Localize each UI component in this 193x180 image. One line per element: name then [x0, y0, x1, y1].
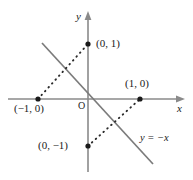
y-axis-arrow-icon	[85, 11, 92, 20]
equation-label: y = −x	[140, 133, 169, 144]
x-axis-label: x	[177, 103, 182, 114]
data-point-0-1	[85, 41, 90, 46]
coordinate-plane-figure: y x O (0, 1) (1, 0) (−1, 0) (0, −1) y = …	[0, 0, 193, 180]
point-label-0-neg1: (0, −1)	[38, 140, 68, 151]
dotted-segment-neg1-0-to-0-1	[38, 44, 88, 99]
origin-label: O	[78, 101, 85, 111]
graph-canvas	[0, 0, 193, 180]
point-label-0-1: (0, 1)	[96, 38, 120, 49]
y-axis-label: y	[76, 11, 81, 22]
point-label-1-0: (1, 0)	[125, 78, 149, 89]
data-point-1-0	[137, 96, 142, 101]
point-label-neg1-0: (−1, 0)	[14, 103, 44, 114]
data-point-neg1-0	[35, 96, 40, 101]
data-point-0-neg1	[85, 143, 90, 148]
